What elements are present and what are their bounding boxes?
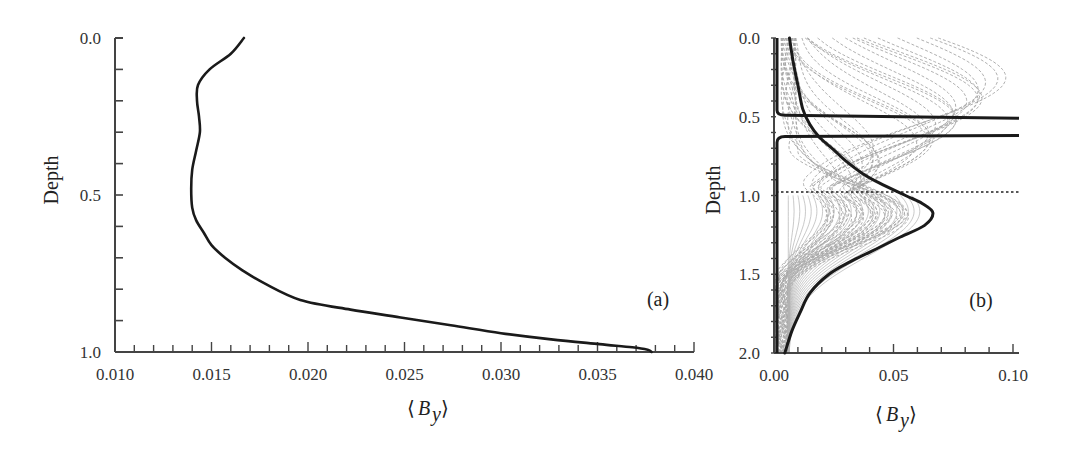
panel-a-x-axis-title: ⟨ B y ⟩ [407, 397, 449, 426]
intermediate-profile [783, 38, 932, 353]
panel-a-y-tick: 1.0 [80, 343, 101, 362]
panel-b: 0.00.51.01.52.0 0.000.050.10 Depth ⟨ B y… [702, 29, 1028, 432]
intermediate-profile [775, 38, 986, 353]
panel-b-x-tick: 0.10 [998, 366, 1028, 385]
svg-text:⟩: ⟩ [441, 397, 449, 419]
panel-b-x-tick-labels: 0.000.050.10 [759, 366, 1028, 385]
panel-a-x-tick: 0.035 [578, 365, 616, 384]
panel-a-label: (a) [647, 288, 669, 311]
panel-b-y-tick: 1.0 [739, 187, 760, 206]
panel-b-x-axis-title: ⟨ B y ⟩ [875, 403, 917, 432]
svg-text:B: B [418, 397, 430, 419]
panel-a-x-tick: 0.025 [385, 365, 423, 384]
figure: 0.00.51.0 0.0100.0150.0200.0250.0300.035… [0, 0, 1073, 450]
svg-text:y: y [430, 403, 441, 426]
panel-a-profile-curve [191, 38, 651, 352]
panel-b-y-tick: 0.5 [739, 108, 760, 127]
panel-a-x-tick-labels: 0.0100.0150.0200.0250.0300.0350.040 [96, 365, 713, 384]
panel-b-y-tick-labels: 0.00.51.01.52.0 [739, 29, 760, 363]
panel-a-y-tick: 0.5 [80, 186, 101, 205]
intermediate-profile [775, 38, 978, 353]
panel-b-label: (b) [969, 289, 992, 312]
svg-text:y: y [898, 409, 909, 432]
intermediate-profile [779, 38, 978, 353]
intermediate-profile [775, 38, 982, 353]
panel-b-final-profile-curve [785, 38, 933, 353]
panel-b-y-tick: 0.0 [739, 29, 760, 48]
svg-text:B: B [886, 403, 898, 425]
panel-a-axes [115, 38, 694, 352]
panel-a-x-tick: 0.010 [96, 365, 134, 384]
panel-a-y-tick-labels: 0.00.51.0 [80, 29, 101, 362]
svg-text:⟨: ⟨ [875, 403, 883, 425]
panel-a: 0.00.51.0 0.0100.0150.0200.0250.0300.035… [40, 29, 713, 426]
svg-text:⟨: ⟨ [407, 397, 415, 419]
panel-b-x-tick: 0.05 [879, 366, 909, 385]
panel-a-x-tick: 0.040 [675, 365, 713, 384]
panel-b-y-tick: 1.5 [739, 265, 760, 284]
svg-text:⟩: ⟩ [909, 403, 917, 425]
panel-a-y-axis-title: Depth [40, 156, 63, 205]
panel-a-y-tick: 0.0 [80, 29, 101, 48]
panel-a-x-tick: 0.020 [289, 365, 327, 384]
intermediate-profile [788, 196, 840, 354]
panel-b-y-axis-title: Depth [702, 166, 725, 215]
intermediate-profile [789, 196, 903, 354]
panel-a-x-tick: 0.015 [192, 365, 230, 384]
panel-b-x-tick: 0.00 [759, 366, 789, 385]
intermediate-profile [780, 38, 980, 353]
panel-a-x-tick: 0.030 [482, 365, 520, 384]
panel-b-y-tick: 2.0 [739, 344, 760, 363]
